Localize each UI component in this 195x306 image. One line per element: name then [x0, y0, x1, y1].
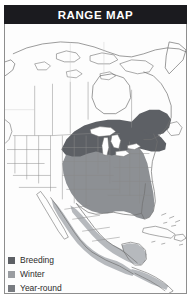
legend-label-breeding: Breeding [20, 255, 54, 265]
legend-swatch-winter [8, 271, 15, 278]
range-map-figure: RANGE MAP [0, 0, 195, 306]
legend-label-winter: Winter [20, 269, 45, 279]
bottom-divider [4, 293, 187, 294]
legend-item-winter: Winter [8, 268, 118, 280]
north-america-map [5, 24, 186, 293]
legend-swatch-year-round [8, 285, 15, 292]
legend-item-breeding: Breeding [8, 254, 118, 266]
legend-swatch-breeding [8, 257, 15, 264]
map-legend: Breeding Winter Year-round [8, 254, 118, 296]
legend-label-year-round: Year-round [20, 283, 62, 293]
range-map-banner: RANGE MAP [4, 5, 187, 24]
page-title: RANGE MAP [58, 9, 134, 21]
